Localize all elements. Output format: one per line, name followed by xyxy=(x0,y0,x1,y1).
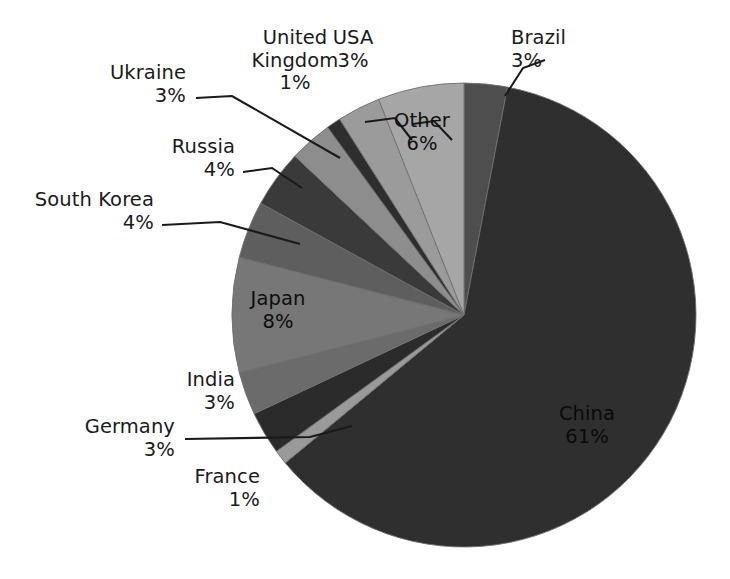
label-france: France 1% xyxy=(135,466,260,511)
label-brazil-name: Brazil xyxy=(511,27,641,50)
label-russia-pct: 4% xyxy=(60,159,235,182)
label-india-name: India xyxy=(110,369,235,392)
label-usa-pct: 3% xyxy=(310,50,396,73)
label-germany-pct: 3% xyxy=(20,439,175,462)
label-south-korea: South Korea 4% xyxy=(2,189,154,234)
label-japan-name: Japan xyxy=(228,288,328,311)
label-usa: USA 3% xyxy=(310,27,396,72)
label-japan: Japan 8% xyxy=(228,288,328,333)
label-india-pct: 3% xyxy=(110,392,235,415)
label-south-korea-pct: 4% xyxy=(2,212,154,235)
label-other-pct: 6% xyxy=(372,133,472,156)
label-south-korea-name: South Korea xyxy=(2,189,154,212)
label-other-name: Other xyxy=(372,110,472,133)
pie-chart-figure: Ukraine 3% United Kingdom 1% USA 3% Braz… xyxy=(0,0,730,579)
label-china: China 61% xyxy=(532,403,642,448)
label-india: India 3% xyxy=(110,369,235,414)
label-china-name: China xyxy=(532,403,642,426)
label-france-name: France xyxy=(135,466,260,489)
label-ukraine-pct: 3% xyxy=(16,85,186,108)
label-germany: Germany 3% xyxy=(20,416,175,461)
label-brazil: Brazil 3% xyxy=(511,27,641,72)
label-germany-name: Germany xyxy=(20,416,175,439)
label-france-pct: 1% xyxy=(135,489,260,512)
label-ukraine-name: Ukraine xyxy=(16,62,186,85)
label-united-kingdom-pct: 1% xyxy=(215,72,375,95)
label-ukraine: Ukraine 3% xyxy=(16,62,186,107)
label-other: Other 6% xyxy=(372,110,472,155)
label-russia-name: Russia xyxy=(60,136,235,159)
label-brazil-pct: 3% xyxy=(511,50,641,73)
label-usa-name: USA xyxy=(310,27,396,50)
label-china-pct: 61% xyxy=(532,426,642,449)
label-japan-pct: 8% xyxy=(228,311,328,334)
label-russia: Russia 4% xyxy=(60,136,235,181)
